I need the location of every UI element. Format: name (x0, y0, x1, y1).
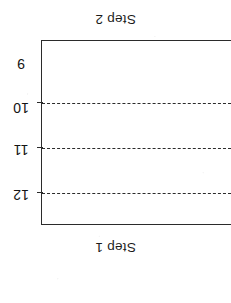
rotated-figure-container: Step 2 12 11 10 9 Step 1 (0, 0, 231, 303)
x-axis-title: Step 1 (0, 240, 231, 255)
y-tick-label-12: 12 (4, 188, 38, 202)
y-tick-label-9: 9 (4, 57, 38, 71)
scanned-chart-page: Step 2 12 11 10 9 Step 1 (0, 0, 231, 303)
gridline-12 (42, 193, 231, 194)
gridline-11 (42, 148, 231, 149)
y-tick-label-10: 10 (4, 101, 38, 115)
y-tick-label-11: 11 (4, 143, 38, 157)
plot-panel (41, 40, 231, 225)
cropped-heading-text (0, 0, 231, 2)
gridline-10 (42, 103, 231, 104)
y-axis-title: Step 2 (0, 12, 231, 27)
